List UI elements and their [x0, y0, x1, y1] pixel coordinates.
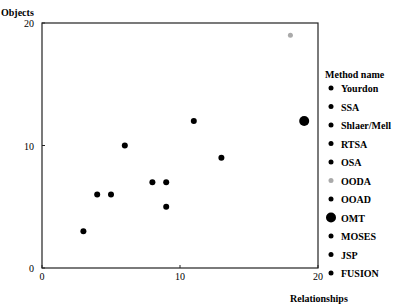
data-point: [299, 116, 309, 126]
x-tick-label: 20: [313, 271, 323, 282]
legend-marker-icon: [329, 123, 334, 128]
legend-marker-icon: [329, 178, 334, 183]
legend-item-label: FUSION: [341, 268, 380, 279]
legend-marker-icon: [326, 213, 336, 223]
legend-marker-icon: [329, 104, 334, 109]
legend-marker-icon: [329, 86, 334, 91]
legend-marker-icon: [329, 141, 334, 146]
data-point: [163, 204, 169, 210]
legend-marker-icon: [329, 234, 334, 239]
data-points: [80, 33, 309, 235]
data-point: [163, 179, 169, 185]
legend-item-label: Shlaer/Mell: [341, 120, 391, 131]
x-tick-label: 10: [175, 271, 185, 282]
x-axis-label: Relationships: [290, 293, 348, 304]
legend-marker-icon: [329, 271, 334, 276]
legend-item-label: OMT: [341, 213, 365, 224]
x-tick-label: 0: [40, 271, 45, 282]
legend-item-label: SSA: [341, 102, 360, 113]
y-tick-label: 10: [24, 141, 34, 152]
y-axis-label: Objects: [1, 7, 34, 18]
data-point: [218, 155, 224, 161]
legend: YourdonSSAShlaer/MellRTSAOSAOODAOOADOMTM…: [326, 83, 391, 279]
legend-item-label: RTSA: [341, 139, 368, 150]
data-point: [108, 192, 114, 198]
data-point: [122, 143, 128, 149]
legend-marker-icon: [329, 197, 334, 202]
legend-item-label: MOSES: [341, 231, 376, 242]
y-tick-label: 20: [24, 18, 34, 29]
axis-ticks: 0102001020: [24, 18, 323, 282]
scatter-chart: Objects 0102001020 Relationships Method …: [0, 0, 402, 306]
legend-item-label: Yourdon: [341, 83, 379, 94]
data-point: [94, 192, 100, 198]
legend-title: Method name: [325, 69, 385, 80]
data-point: [191, 118, 197, 124]
legend-item-label: OOAD: [341, 194, 371, 205]
legend-marker-icon: [329, 252, 334, 257]
legend-item-label: JSP: [341, 250, 358, 261]
y-tick-label: 0: [29, 263, 34, 274]
data-point: [80, 228, 86, 234]
data-point: [288, 33, 293, 38]
legend-item-label: OSA: [341, 157, 362, 168]
data-point: [149, 179, 155, 185]
legend-marker-icon: [329, 160, 334, 165]
legend-item-label: OODA: [341, 176, 372, 187]
